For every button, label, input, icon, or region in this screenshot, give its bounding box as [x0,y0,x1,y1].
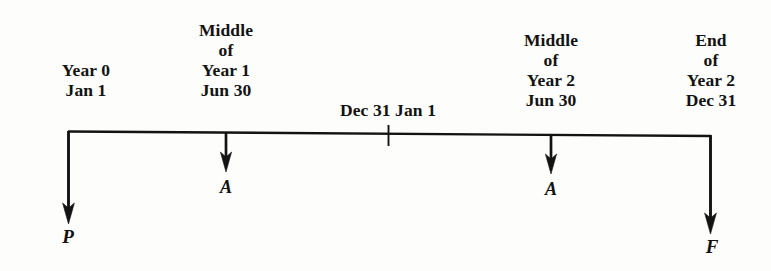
cash-flow-arrow-A1 [220,133,231,173]
cash-flow-symbol-F: F [682,236,742,258]
cash-flow-symbol-text: P [62,226,74,247]
cash-flow-symbol-P: P [38,226,98,248]
cash-flow-symbol-text: F [706,236,719,257]
cash-flow-timeline-diagram: Year 0 Jan 1 Middle of Year 1 Jun 30 Dec… [0,0,771,271]
timeline-artwork [0,0,771,271]
timeline-axis [68,132,711,137]
cash-flow-symbol-text: A [545,179,557,199]
cash-flow-arrow-A2 [545,135,556,175]
cash-flow-arrow-F [705,135,717,234]
cash-flow-symbol-A1: A [196,177,256,198]
cash-flow-symbol-text: A [220,177,232,197]
cash-flow-symbol-A2: A [521,179,581,200]
cash-flow-arrow-P [63,131,75,224]
